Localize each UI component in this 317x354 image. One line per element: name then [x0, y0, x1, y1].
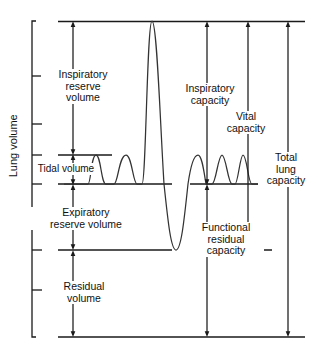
label-tidal-volume: Tidal volume	[33, 163, 99, 175]
label-vital-capacity: Vital capacity	[215, 111, 277, 134]
label-total-lung-capacity: Total lung capacity	[258, 152, 314, 187]
label-inspiratory-capacity: Inspiratory capacity	[174, 83, 246, 106]
label-residual-volume: Residual volume	[44, 281, 124, 304]
label-inspiratory-reserve-volume: Inspiratory reserve volume	[41, 69, 125, 104]
lung-volume-diagram: Lung volume Inspiratory reserve volume T…	[0, 0, 317, 354]
label-functional-residual-capacity: Functional residual capacity	[188, 222, 264, 257]
y-axis-title: Lung volume	[8, 108, 20, 184]
label-expiratory-reserve-volume: Expiratory reserve volume	[30, 207, 142, 230]
